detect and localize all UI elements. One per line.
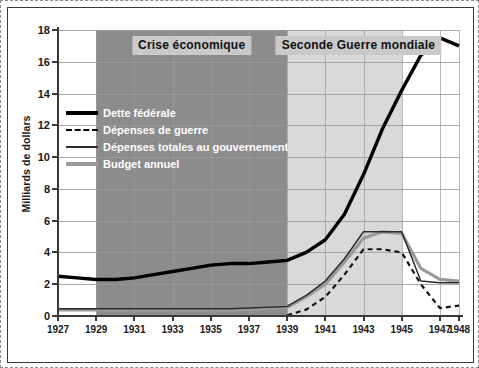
y-axis-tick (52, 93, 58, 95)
plot-area (58, 30, 459, 316)
y-axis-tick (52, 156, 58, 158)
x-axis-tick-label: 1943 (344, 324, 384, 335)
x-axis-tick-label: 1945 (382, 324, 422, 335)
y-axis-tick (52, 283, 58, 285)
legend-item-depenses-totales: Dépenses totales au gouvernement (66, 138, 288, 155)
series-line-d-penses-totales-au-gouvernement (58, 232, 459, 309)
chart-figure: Milliards de dollars 024681012141618 192… (7, 7, 474, 363)
y-axis-tick-label: 8 (24, 184, 50, 194)
y-axis-tick-label: 6 (24, 216, 50, 226)
y-axis-line (57, 27, 59, 319)
legend-swatch-depenses-de-guerre (66, 124, 98, 136)
y-axis-tick (52, 61, 58, 63)
x-axis-tick-label: 1927 (38, 324, 78, 335)
series-lines (58, 30, 459, 316)
y-axis-tick-label: 2 (24, 279, 50, 289)
x-axis-tick-label: 1933 (153, 324, 193, 335)
chart-legend: Dette fédérale Dépenses de guerre Dépens… (66, 104, 288, 172)
y-axis-tick-label: 12 (24, 120, 50, 130)
x-axis-tick (248, 315, 250, 321)
legend-label-dette-federale: Dette fédérale (103, 107, 176, 119)
y-axis-tick-label: 16 (24, 57, 50, 67)
x-axis-tick-label: 1929 (76, 324, 116, 335)
y-axis-tick (52, 220, 58, 222)
y-axis-tick (52, 29, 58, 31)
y-axis-tick-label: 0 (24, 311, 50, 321)
legend-swatch-depenses-totales (66, 141, 98, 153)
x-axis-tick (172, 315, 174, 321)
legend-item-budget-annuel: Budget annuel (66, 155, 288, 172)
legend-item-depenses-de-guerre: Dépenses de guerre (66, 121, 288, 138)
x-axis-tick-label: 1935 (191, 324, 231, 335)
x-axis-tick-label: 1941 (305, 324, 345, 335)
x-axis-tick (210, 315, 212, 321)
grid-line-vertical (459, 30, 460, 316)
y-axis-tick (52, 251, 58, 253)
x-axis-tick (57, 315, 59, 321)
image-dashed-border: Milliards de dollars 024681012141618 192… (0, 0, 479, 368)
band-label-seconde-guerre-mondiale: Seconde Guerre mondiale (276, 36, 441, 55)
x-axis-tick (95, 315, 97, 321)
y-axis-tick-label: 4 (24, 247, 50, 257)
x-axis-tick-label: 1931 (114, 324, 154, 335)
x-axis-tick (324, 315, 326, 321)
x-axis-tick-label: 1939 (267, 324, 307, 335)
series-line-budget-annuel (58, 232, 459, 310)
x-axis-tick (363, 315, 365, 321)
legend-label-depenses-de-guerre: Dépenses de guerre (103, 124, 208, 136)
y-axis-tick (52, 124, 58, 126)
x-axis-tick (286, 315, 288, 321)
y-axis-tick (52, 188, 58, 190)
x-axis-tick-label: 1948 (439, 324, 479, 335)
legend-item-dette-federale: Dette fédérale (66, 104, 288, 121)
band-label-crise-economique: Crise économique (132, 36, 251, 55)
x-axis-tick (401, 315, 403, 321)
legend-label-depenses-totales: Dépenses totales au gouvernement (103, 141, 288, 153)
y-axis-tick-label: 18 (24, 25, 50, 35)
legend-swatch-budget-annuel (66, 158, 98, 170)
x-axis-tick-label: 1937 (229, 324, 269, 335)
x-axis-tick (458, 315, 460, 321)
y-axis-tick-label: 14 (24, 89, 50, 99)
y-axis-title: Milliards de dollars (20, 54, 32, 274)
x-axis-tick (439, 315, 441, 321)
legend-swatch-dette-federale (66, 107, 98, 119)
y-axis-tick-label: 10 (24, 152, 50, 162)
legend-label-budget-annuel: Budget annuel (103, 158, 179, 170)
x-axis-tick (133, 315, 135, 321)
